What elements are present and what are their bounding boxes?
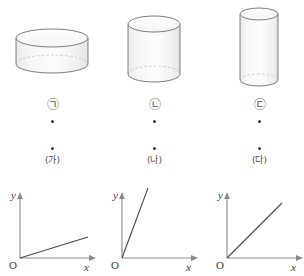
bullet-dot-lower-3	[258, 147, 261, 150]
graph-c-y-arrow	[224, 192, 230, 199]
figure-canvas: ㉠ (가) y O x	[0, 0, 304, 276]
graph-c-origin-label: O	[216, 259, 224, 271]
cylinder-body-2	[128, 24, 180, 82]
graph-a-x-arrow	[89, 255, 96, 261]
circled-label-3: ㉢	[209, 98, 304, 112]
cylinder-top-ellipse-3	[240, 8, 278, 20]
graph-a-x-label: x	[83, 261, 89, 273]
cylinder-flat-wide	[2, 0, 103, 96]
graph-b-y-arrow	[119, 192, 125, 199]
bullet-dot-upper-2	[153, 120, 156, 123]
graph-a-line	[20, 237, 88, 258]
cylinder-top-ellipse-2	[128, 16, 180, 32]
graph-b: y O x	[104, 188, 205, 276]
figure-column-2: ㉡ (나) y O x	[104, 0, 205, 276]
paren-label-1: (가)	[2, 155, 103, 166]
graph-b-x-arrow	[191, 255, 198, 261]
circled-label-2: ㉡	[104, 98, 205, 112]
graph-c-x-arrow	[296, 255, 303, 261]
figure-column-3: ㉢ (다) y O x	[209, 0, 304, 276]
graph-b-line	[122, 188, 148, 258]
cylinder-body-3	[240, 14, 278, 86]
cylinder-tall-narrow	[209, 0, 304, 96]
bullet-dot-upper-1	[51, 120, 54, 123]
graph-b-x-label: x	[185, 261, 191, 273]
graph-c-line	[227, 203, 282, 258]
graph-c: y O x	[209, 188, 304, 276]
graph-a: y O x	[2, 188, 103, 276]
circled-label-1: ㉠	[2, 98, 103, 112]
figure-column-1: ㉠ (가) y O x	[2, 0, 103, 276]
graph-c-y-label: y	[217, 189, 223, 201]
cylinder-medium	[104, 0, 205, 96]
graph-c-x-label: x	[290, 261, 296, 273]
cylinder-top-ellipse-1	[16, 29, 88, 47]
bullet-dot-lower-2	[153, 147, 156, 150]
graph-a-y-label: y	[10, 189, 16, 201]
graph-b-y-label: y	[112, 189, 118, 201]
paren-label-2: (나)	[104, 155, 205, 166]
graph-a-y-arrow	[17, 192, 23, 199]
bullet-dot-lower-1	[51, 147, 54, 150]
graph-a-origin-label: O	[9, 259, 17, 271]
bullet-dot-upper-3	[258, 120, 261, 123]
paren-label-3: (다)	[209, 155, 304, 166]
graph-b-origin-label: O	[111, 259, 119, 271]
